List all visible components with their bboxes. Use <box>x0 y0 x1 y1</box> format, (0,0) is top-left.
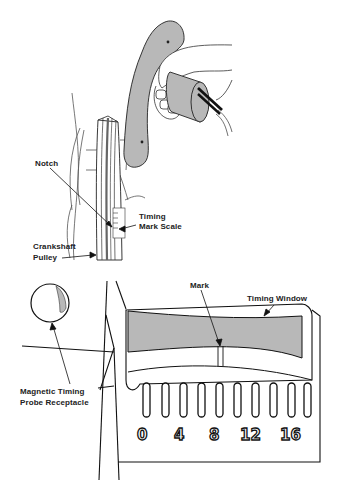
probe-receptacle-label-line2: Probe Receptacle <box>20 398 89 408</box>
probe-receptacle-label-line1: Magnetic Timing <box>20 387 84 397</box>
crankshaft-pulley-label-line1: Crankshaft <box>33 242 76 252</box>
probe-cylinder <box>166 72 232 136</box>
notch-label: Notch <box>35 159 58 169</box>
scale-number-16: 16 <box>280 427 301 443</box>
timing-window-label: Timing Window <box>247 294 307 304</box>
mark-label: Mark <box>190 281 209 291</box>
scale-number-12: 12 <box>240 427 261 443</box>
probe-receptacle <box>31 284 69 322</box>
scale-number-4: 4 <box>174 427 184 443</box>
scale-number-0: 0 <box>137 427 147 443</box>
timing-mark-scale-label-line1: Timing <box>139 212 166 222</box>
timing-mark-scale-label-line2: Mark Scale <box>139 222 182 232</box>
scale-number-8: 8 <box>209 427 219 443</box>
crankshaft-pulley <box>96 116 125 260</box>
crankshaft-pulley-label-line2: Pulley <box>33 253 57 263</box>
timing-scale-teeth <box>143 383 311 417</box>
